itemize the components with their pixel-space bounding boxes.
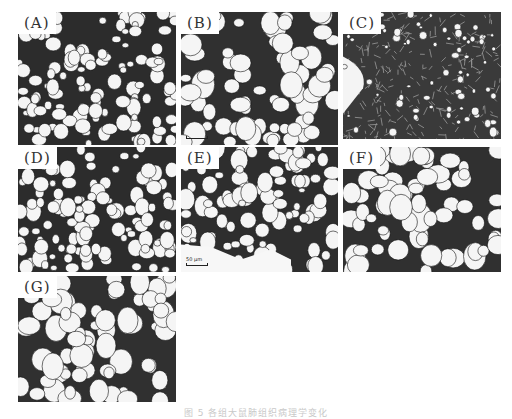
panel-label-g: (G)	[18, 276, 57, 298]
panel-label-f: (F)	[343, 147, 380, 169]
panel-label-c: (C)	[343, 12, 381, 34]
figure-caption: 图 5 各组大鼠肺组织病理学变化	[0, 406, 512, 419]
micrograph-panel-e: (E)50 μm	[181, 147, 338, 272]
micrograph-panel-b: (B)	[181, 12, 338, 145]
panel-label-a: (A)	[18, 12, 56, 34]
micrograph-panel-a: (A)	[18, 12, 176, 145]
scale-bar	[186, 135, 208, 139]
panel-label-e: (E)	[181, 147, 219, 169]
scale-bar: 50 μm	[186, 256, 208, 266]
panel-label-d: (D)	[18, 147, 57, 169]
micrograph-panel-g: (G)	[18, 276, 176, 402]
panel-label-b: (B)	[181, 12, 219, 34]
micrograph-panel-c: (C)	[343, 12, 501, 139]
micrograph-panel-f: (F)	[343, 147, 501, 272]
micrograph-panel-d: (D)	[18, 147, 176, 272]
